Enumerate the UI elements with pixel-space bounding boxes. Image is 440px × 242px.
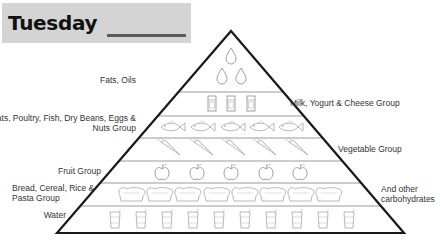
fruit-icons bbox=[155, 164, 307, 180]
protein-icons bbox=[161, 121, 303, 131]
grains-icons bbox=[119, 188, 342, 201]
label-fats-oils: Fats, Oils bbox=[100, 75, 136, 85]
fats-icons bbox=[217, 48, 246, 84]
tier-dividers bbox=[80, 92, 381, 206]
label-fruit-group: Fruit Group bbox=[58, 166, 101, 176]
label-carbs-line2: carbohydrates bbox=[381, 194, 435, 204]
label-grains-line1: Bread, Cereal, Rice & bbox=[12, 183, 94, 193]
label-carbs-line1: And other bbox=[381, 184, 435, 194]
label-grains-line2: Pasta Group bbox=[12, 193, 94, 203]
label-dairy-group: Milk, Yogurt & Cheese Group bbox=[290, 98, 400, 108]
dairy-icons bbox=[208, 96, 255, 111]
label-grains-group: Bread, Cereal, Rice & Pasta Group bbox=[12, 183, 94, 203]
label-protein-line2: Nuts Group bbox=[0, 123, 136, 133]
water-icons bbox=[110, 209, 355, 228]
vegetable-icons bbox=[157, 137, 308, 155]
label-vegetable-group: Vegetable Group bbox=[338, 144, 402, 154]
label-other-carbohydrates: And other carbohydrates bbox=[381, 184, 435, 204]
label-protein-group: Meats, Poultry, Fish, Dry Beans, Eggs & … bbox=[0, 113, 136, 133]
label-protein-line1: Meats, Poultry, Fish, Dry Beans, Eggs & bbox=[0, 113, 136, 123]
label-water: Water bbox=[44, 210, 66, 220]
